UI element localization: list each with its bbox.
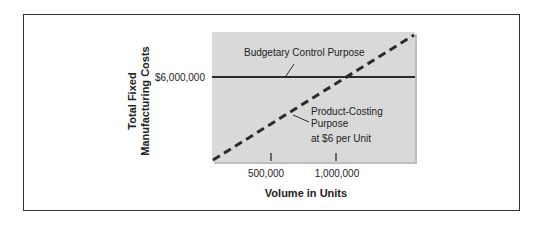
y-axis-label-line2: Manufacturing Costs <box>139 46 151 155</box>
y-axis-label-line1: Total Fixed <box>126 72 138 129</box>
ytick-label-6m: $6,000,000 <box>155 72 205 83</box>
x-axis-label: Volume in Units <box>265 187 347 199</box>
product-annotation-line2: Purpose <box>311 118 349 129</box>
product-annotation-line1: Product-Costing <box>311 106 383 117</box>
product-annotation-line3: at $6 per Unit <box>311 133 371 144</box>
xtick-label-1m: 1,000,000 <box>315 168 360 179</box>
xtick-label-500k: 500,000 <box>248 168 285 179</box>
chart: Budgetary Control Purpose Product-Costin… <box>0 0 545 225</box>
budget-annotation: Budgetary Control Purpose <box>244 47 365 58</box>
